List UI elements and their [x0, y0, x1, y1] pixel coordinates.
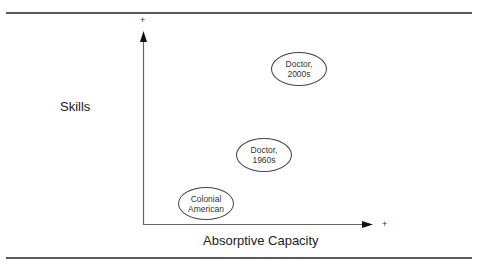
x-axis-plus-marker: + [382, 219, 387, 229]
x-axis-label: Absorptive Capacity [203, 233, 319, 248]
x-axis-arrow [143, 221, 373, 228]
node-label-line2: 1960s [251, 155, 278, 165]
y-axis-label: Skills [60, 99, 90, 114]
y-axis-arrow [140, 31, 147, 224]
node-label-line2: 2000s [286, 69, 313, 79]
y-axis-plus-marker: + [140, 15, 145, 25]
node-label-line1: Colonial [188, 194, 224, 204]
node-label-line1: Doctor, [286, 59, 313, 69]
node-doctor-1960s: Doctor, 1960s [236, 138, 292, 172]
node-label-line2: American [188, 204, 224, 214]
node-colonial-american: Colonial American [178, 187, 234, 220]
bottom-rule [6, 257, 472, 259]
axes [0, 0, 481, 265]
node-doctor-2000s: Doctor, 2000s [271, 52, 327, 86]
node-label-line1: Doctor, [251, 145, 278, 155]
